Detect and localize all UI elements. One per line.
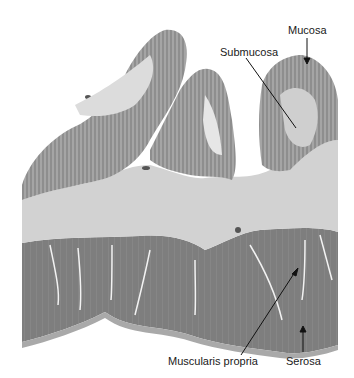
label-submucosa: Submucosa (220, 46, 278, 58)
histology-figure: Mucosa Submucosa Muscularis propria Sero… (0, 0, 354, 378)
tissue-section (0, 0, 354, 378)
label-muscularis-propria: Muscularis propria (168, 355, 258, 367)
label-serosa: Serosa (286, 355, 321, 367)
label-mucosa: Mucosa (288, 24, 327, 36)
